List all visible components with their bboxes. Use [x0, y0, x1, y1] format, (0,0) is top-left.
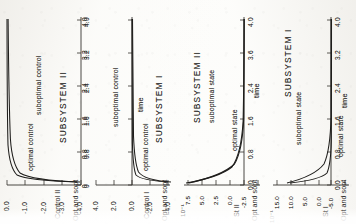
x-tick-3-5: 4.0 [247, 17, 254, 27]
annotation-suboptimal-3: suboptimal state [208, 70, 215, 123]
annotation-optimal-1: optimal control [27, 123, 34, 171]
x-tick-2-1: 0.8 [81, 149, 88, 159]
curve-suboptimal-4 [287, 19, 331, 183]
y-tick-3-0: 7.5 [184, 196, 191, 205]
panel-subsystem-ii-control: 0.0 -1.0 -2.0 -3.0 -4.0 0 0.8 1.6 2.4 3.… [0, 0, 88, 224]
annotation-suboptimal-4: suboptimal state [295, 92, 302, 145]
annotation-suboptimal-1: suboptimal control [35, 55, 42, 115]
curve-suboptimal-1 [8, 19, 80, 182]
panel-subsystem-i-state: 10⁻¹ 15.0 10.0 5.0 0.0 -5.0 0.0 0.8 1.6 … [268, 0, 356, 224]
x-ticks-2 [128, 20, 132, 185]
x-tick-2-0: 0 [81, 184, 88, 188]
panel-title-2: SUBSYSTEM I [154, 75, 164, 143]
x-tick-3-4: 3.6 [247, 50, 254, 60]
annotation-optimal-4: optimal state [337, 115, 344, 157]
y-tick-3-1: 5.0 [198, 196, 205, 205]
x-tick-2-3: 2.4 [81, 83, 88, 93]
x-ticks-1 [76, 20, 81, 185]
x-axis-title-3: time [252, 83, 261, 98]
annotation-suboptimal-2: suboptimal control [112, 67, 119, 127]
x-tick-3-1: 0.8 [247, 149, 254, 159]
x-tick-4-4: 3.2 [334, 50, 341, 60]
x-tick-4-5: 4.0 [334, 17, 341, 27]
x-tick-2-4: 3.2 [81, 50, 88, 60]
y-ticks-1 [7, 180, 81, 185]
annotation-optimal-3: optimal state [231, 109, 238, 151]
panel-title-3: SUBSYSTEM II [192, 51, 202, 123]
panel-subsystem-ii-state: 10⁻¹ 7.5 5.0 2.5 0.0 -2.5 0.0 0.8 1.6 2.… [178, 0, 268, 224]
page-bottom-margin [0, 208, 356, 224]
x-tick-4-3: 2.4 [334, 83, 341, 93]
panel-title-1: SUBSYSTEM II [58, 71, 68, 143]
x-tick-2-2: 1.6 [81, 116, 88, 126]
y-tick-3-2: 2.5 [212, 196, 219, 205]
y-tick-4-3: 0.0 [315, 197, 322, 206]
x-tick-3-2: 1.6 [247, 116, 254, 126]
x-axis-title-4: time [340, 93, 349, 108]
y-tick-3-4: -2.5 [240, 197, 247, 208]
figure-panels: 0.0 -1.0 -2.0 -3.0 -4.0 0 0.8 1.6 2.4 3.… [0, 0, 356, 224]
panel-title-4: SUBSYSTEM I [283, 29, 293, 97]
y-tick-4-2: 5.0 [301, 197, 308, 206]
annotation-optimal-2: optimal control [142, 123, 149, 171]
panel-subsystem-i-control: 4.0 2.0 0.0 -2.0 -4.0 0 0.8 1.6 2.4 3.2 … [88, 0, 178, 224]
x-axis-title-2: time [136, 97, 145, 112]
x-tick-2-5: 4.0 [81, 17, 88, 27]
